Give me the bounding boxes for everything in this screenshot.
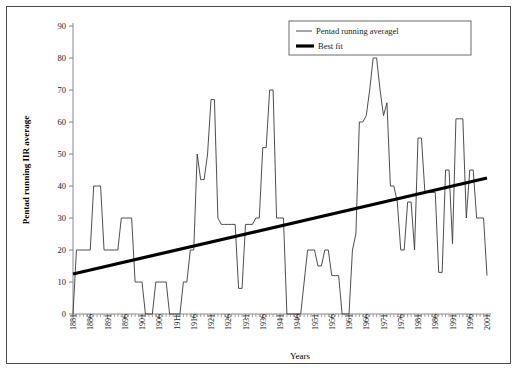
series-pentad-running-average — [73, 58, 487, 314]
x-tick-label-1906: 1906 — [155, 314, 164, 330]
x-tick-label-1936: 1936 — [259, 314, 268, 330]
x-tick-label-1926: 1926 — [224, 314, 233, 330]
x-tick-label-1881: 1881 — [69, 314, 78, 330]
y-tick-label-60: 60 — [58, 117, 67, 127]
x-tick-label-1941: 1941 — [276, 314, 285, 330]
x-tick-label-1916: 1916 — [190, 314, 199, 330]
x-tick-label-1911: 1911 — [173, 314, 182, 330]
x-tick-label-2001: 2001 — [483, 314, 492, 330]
x-tick-label-1976: 1976 — [397, 314, 406, 330]
x-tick-label-1931: 1931 — [242, 314, 251, 330]
y-tick-label-0: 0 — [62, 309, 66, 319]
x-tick-label-1886: 1886 — [86, 314, 95, 330]
y-tick-label-90: 90 — [58, 21, 67, 31]
x-tick-label-1981: 1981 — [414, 314, 423, 330]
x-tick-label-1986: 1986 — [431, 314, 440, 330]
x-tick-label-1921: 1921 — [207, 314, 216, 330]
x-tick-label-1971: 1971 — [380, 314, 389, 330]
y-axis-title: Pentad running IIR average — [21, 116, 31, 224]
chart-frame: 0102030405060708090 18811886189118961901… — [6, 6, 511, 364]
y-tick-label-50: 50 — [58, 149, 67, 159]
y-axis-tick-labels: 0102030405060708090 — [58, 21, 67, 319]
series-best-fit — [73, 178, 487, 274]
chart-svg: 0102030405060708090 18811886189118961901… — [7, 7, 512, 365]
y-tick-label-40: 40 — [58, 181, 67, 191]
legend-label-fit: Best fit — [318, 41, 343, 51]
y-tick-label-80: 80 — [58, 53, 67, 63]
x-axis-title: Years — [290, 351, 311, 361]
y-tick-label-70: 70 — [58, 85, 67, 95]
x-tick-label-1901: 1901 — [138, 314, 147, 330]
x-tick-label-1951: 1951 — [311, 314, 320, 330]
y-tick-label-20: 20 — [58, 245, 67, 255]
x-tick-label-1946: 1946 — [293, 314, 302, 330]
y-axis-ticks — [69, 26, 73, 314]
y-tick-label-30: 30 — [58, 213, 67, 223]
x-tick-label-1961: 1961 — [345, 314, 354, 330]
y-tick-label-10: 10 — [58, 277, 67, 287]
x-tick-label-1966: 1966 — [362, 314, 371, 330]
x-tick-label-1956: 1956 — [328, 314, 337, 330]
chart-legend: Pentad running averagel Best fit — [289, 21, 471, 55]
x-tick-label-1891: 1891 — [104, 314, 113, 330]
chart-plot-area: 0102030405060708090 18811886189118961901… — [7, 7, 512, 365]
x-tick-label-1896: 1896 — [121, 314, 130, 330]
legend-label-series: Pentad running averagel — [316, 26, 399, 36]
x-tick-label-1996: 1996 — [466, 314, 475, 330]
x-tick-label-1991: 1991 — [449, 314, 458, 330]
